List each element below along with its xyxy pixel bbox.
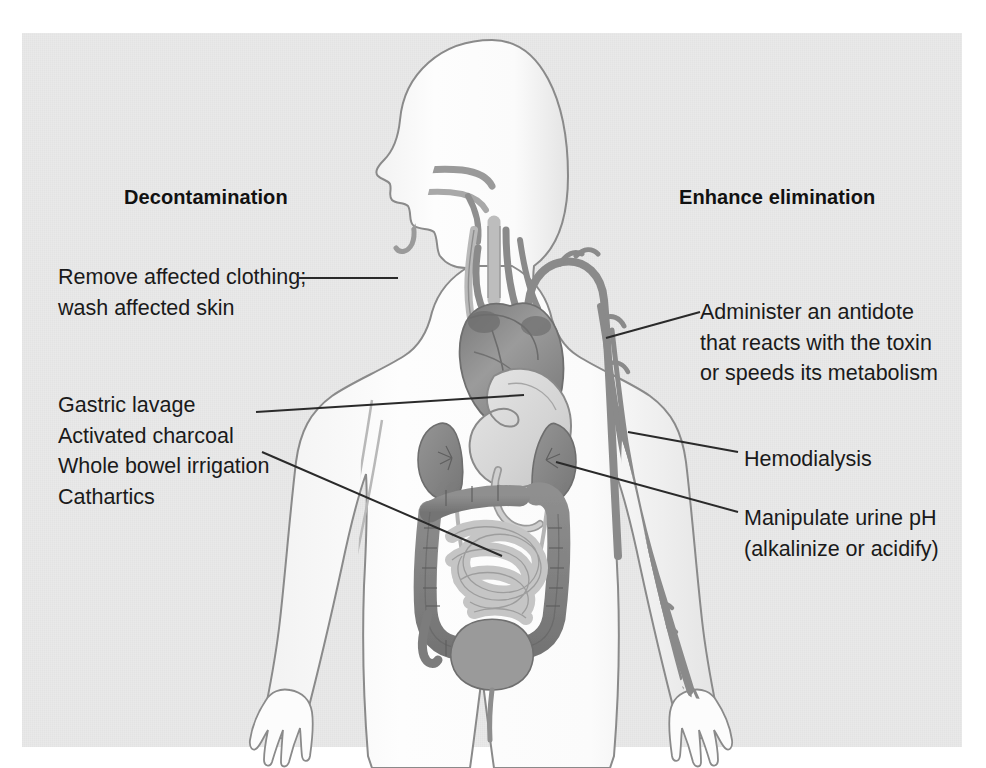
callout-hemodialysis: Hemodialysis: [744, 444, 872, 475]
callout-antidote: Administer an antidote that reacts with …: [700, 297, 938, 389]
callout-line: or speeds its metabolism: [700, 358, 938, 389]
callout-line: wash affected skin: [58, 293, 306, 324]
callout-line: Remove affected clothing;: [58, 262, 306, 293]
callout-line: Activated charcoal: [58, 421, 270, 452]
leader-antidote: [606, 312, 700, 338]
callout-remove-clothing: Remove affected clothing; wash affected …: [58, 262, 306, 323]
callout-urine-ph: Manipulate urine pH (alkalinize or acidi…: [744, 503, 939, 564]
callout-line: (alkalinize or acidify): [744, 534, 939, 565]
figure-canvas: Decontamination Enhance elimination Remo…: [0, 0, 986, 768]
callout-line: Hemodialysis: [744, 444, 872, 475]
heading-decontamination: Decontamination: [124, 186, 288, 209]
callout-gi-decontamination: Gastric lavage Activated charcoal Whole …: [58, 390, 270, 512]
callout-line: Gastric lavage: [58, 390, 270, 421]
callout-line: that reacts with the toxin: [700, 328, 938, 359]
heading-enhance-elimination: Enhance elimination: [679, 186, 875, 209]
callout-line: Whole bowel irrigation: [58, 451, 270, 482]
callout-line: Administer an antidote: [700, 297, 938, 328]
callout-line: Manipulate urine pH: [744, 503, 939, 534]
callout-line: Cathartics: [58, 482, 270, 513]
